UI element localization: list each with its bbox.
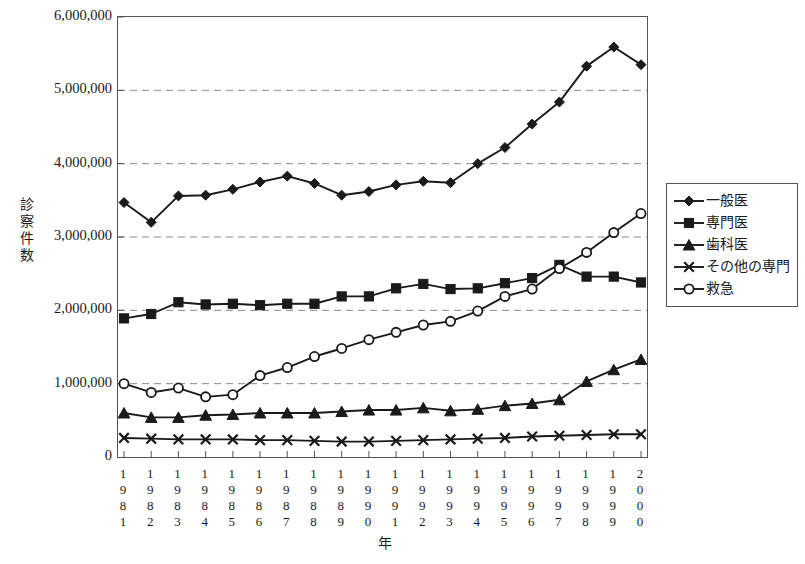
x-tick-digit: 9 [139,482,161,498]
x-tick-digit: 9 [384,482,406,498]
x-tick-digit: 8 [302,498,324,514]
data-point-marker [419,279,428,288]
data-point-marker [608,364,620,375]
data-point-marker [337,344,346,353]
x-tick-digit: 1 [166,466,188,482]
x-tick-digit: 1 [194,466,216,482]
chart-figure: 診察件数 01,000,0002,000,0003,000,0004,000,0… [0,0,805,564]
data-point-marker [500,279,509,288]
x-tick-digit: 9 [602,514,624,530]
x-tick-digit: 1 [493,466,515,482]
x-axis-title: 年 [0,532,770,552]
x-tick-digit: 9 [302,482,324,498]
y-tick-label: 4,000,000 [20,155,112,170]
x-tick-digit: 9 [466,482,488,498]
x-tick-digit: 8 [248,498,270,514]
x-tick-digit: 8 [275,498,297,514]
x-tick-digit: 9 [493,482,515,498]
data-point-marker [310,299,319,308]
y-tick-label: 5,000,000 [20,81,112,96]
x-tick-digit: 6 [248,514,270,530]
x-tick-digit: 2 [411,514,433,530]
x-tick-digit: 1 [248,466,270,482]
x-tick-digit: 4 [194,514,216,530]
x-tick-digit: 9 [411,498,433,514]
x-tick-digit: 9 [602,498,624,514]
data-point-marker [282,171,292,181]
data-point-marker [555,264,564,273]
x-tick-digit: 1 [547,466,569,482]
data-point-marker [446,284,455,293]
x-tick-label: 1981 [112,466,134,530]
data-point-marker [119,314,128,323]
x-tick-digit: 9 [221,482,243,498]
legend-label: 一般医 [706,192,748,210]
x-tick-digit: 9 [112,482,134,498]
x-tick-digit: 1 [466,466,488,482]
plot-canvas [118,17,647,457]
x-tick-digit: 7 [275,514,297,530]
x-tick-digit: 0 [629,514,651,530]
series-4 [119,429,646,446]
data-point-marker [119,379,128,388]
x-tick-digit: 1 [384,466,406,482]
x-tick-digit: 9 [547,482,569,498]
data-point-marker [201,392,210,401]
data-point-marker [635,354,647,365]
x-tick-digit: 9 [357,498,379,514]
x-tick-digit: 8 [139,498,161,514]
x-tick-label: 1993 [439,466,461,530]
data-point-marker [228,184,238,194]
data-point-marker [446,317,455,326]
legend-item-4[interactable]: その他の専門 [672,256,792,278]
x-tick-digit: 6 [520,514,542,530]
x-tick-digit: 1 [384,514,406,530]
series-3 [118,354,647,422]
legend-item-2[interactable]: 専門医 [672,212,792,234]
x-tick-digit: 1 [275,466,297,482]
data-point-marker [364,335,373,344]
x-tick-digit: 9 [520,498,542,514]
legend-item-3[interactable]: 歯科医 [672,234,792,256]
x-tick-label: 1990 [357,466,379,530]
x-tick-digit: 9 [384,498,406,514]
x-tick-label: 1985 [221,466,243,530]
y-axis-tick-labels: 01,000,0002,000,0003,000,0004,000,0005,0… [12,0,112,564]
x-tick-label: 1983 [166,466,188,530]
data-point-marker [418,176,428,186]
data-point-marker [310,352,319,361]
legend-item-5[interactable]: 救急 [672,278,792,300]
x-tick-label: 1994 [466,466,488,530]
legend-label: 救急 [706,280,734,298]
y-tick-label: 2,000,000 [20,301,112,316]
x-tick-label: 1982 [139,466,161,530]
x-marker-icon [672,258,706,276]
square-marker-icon [672,214,706,232]
x-tick-label: 2000 [629,466,651,530]
x-tick-digit: 9 [520,482,542,498]
x-tick-label: 1995 [493,466,515,530]
data-point-marker [201,190,211,200]
y-tick-label: 6,000,000 [20,8,112,23]
data-point-marker [684,284,693,293]
x-tick-label: 1987 [275,466,297,530]
x-tick-digit: 8 [112,498,134,514]
circle-marker-icon [672,280,706,298]
x-tick-digit: 9 [439,482,461,498]
x-tick-digit: 0 [629,498,651,514]
x-tick-label: 1999 [602,466,624,530]
data-point-marker [392,284,401,293]
x-tick-digit: 9 [411,482,433,498]
data-point-marker [391,180,401,190]
x-tick-label: 1989 [330,466,352,530]
x-tick-digit: 1 [575,466,597,482]
data-point-marker [582,248,591,257]
data-point-marker [419,320,428,329]
x-tick-digit: 1 [520,466,542,482]
x-tick-digit: 9 [466,498,488,514]
x-tick-digit: 9 [275,482,297,498]
data-point-marker [528,284,537,293]
legend-item-1[interactable]: 一般医 [672,190,792,212]
data-point-marker [581,376,593,387]
x-tick-label: 1997 [547,466,569,530]
